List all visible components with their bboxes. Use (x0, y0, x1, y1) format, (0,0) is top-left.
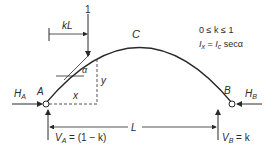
ha-label: HA (14, 88, 26, 100)
y-label: y (100, 75, 107, 86)
hinge-a (43, 101, 49, 107)
load-label: 1 (85, 4, 91, 15)
span-label: L (131, 122, 137, 133)
k-range-note: 0 ≤ k ≤ 1 (199, 25, 233, 35)
crown-label: C (132, 28, 140, 40)
support-b-label: B (224, 85, 231, 96)
support-a-label: A (36, 86, 44, 97)
arch-diagram: 1 kL C α y x A B HA HB VA = (1 − k) VB =… (0, 0, 273, 156)
x-label: x (72, 90, 79, 101)
inertia-note: Ix = Ic secα (199, 39, 243, 50)
vb-label: VB = k (222, 132, 251, 144)
hb-label: HB (245, 88, 257, 100)
va-label: VA = (1 − k) (55, 132, 106, 144)
kl-label: kL (62, 20, 73, 31)
hinge-b (229, 101, 235, 107)
alpha-label: α (82, 65, 88, 75)
